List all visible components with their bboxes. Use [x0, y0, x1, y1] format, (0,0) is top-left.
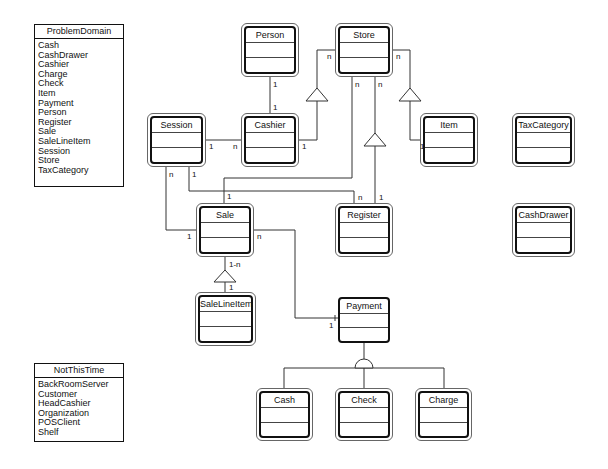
multiplicity-label: 1 — [379, 194, 383, 202]
attributes-section — [517, 133, 570, 148]
class-payment[interactable]: Payment — [338, 297, 390, 343]
class-name: Item — [425, 118, 473, 133]
attributes-section — [246, 133, 294, 148]
class-register[interactable]: Register — [335, 203, 393, 257]
multiplicity-label: 1-n — [229, 261, 241, 269]
problem-domain-list: ProblemDomain Cash CashDrawer Cashier Ch… — [34, 24, 124, 187]
multiplicity-label: 1 — [420, 143, 424, 151]
attributes-section — [246, 43, 294, 58]
class-name: Session — [152, 118, 201, 133]
multiplicity-label: n — [355, 81, 359, 89]
operations-section — [420, 423, 467, 437]
multiplicity-label: 1 — [302, 143, 306, 151]
multiplicity-label: 1 — [273, 81, 277, 89]
attributes-section — [340, 43, 388, 58]
multiplicity-label: 1 — [187, 233, 191, 241]
class-sale-line-item[interactable]: SaleLineItem — [195, 292, 256, 346]
multiplicity-label: n — [396, 53, 400, 61]
class-session[interactable]: Session — [147, 113, 206, 167]
multiplicity-label: 1 — [329, 322, 333, 330]
class-name: Charge — [420, 393, 467, 408]
class-name: Person — [246, 28, 294, 43]
multiplicity-label: n — [358, 194, 362, 202]
class-cash[interactable]: Cash — [256, 388, 313, 441]
class-sale[interactable]: Sale — [196, 203, 254, 257]
operations-section — [425, 148, 473, 162]
operations-section — [246, 148, 294, 162]
operations-section — [152, 148, 201, 162]
class-name: Payment — [340, 299, 388, 314]
attributes-section — [261, 408, 308, 423]
class-name: Check — [340, 393, 388, 408]
attributes-section — [517, 223, 570, 238]
problem-domain-title: ProblemDomain — [35, 25, 123, 39]
operations-section — [340, 238, 388, 252]
attributes-section — [201, 223, 249, 238]
attributes-section — [340, 223, 388, 238]
class-person[interactable]: Person — [241, 23, 299, 77]
class-tax-category[interactable]: TaxCategory — [512, 113, 575, 167]
operations-section — [340, 58, 388, 72]
class-name: Register — [340, 208, 388, 223]
attributes-section — [340, 314, 388, 328]
class-name: TaxCategory — [517, 118, 570, 133]
operations-section — [517, 148, 570, 162]
multiplicity-label: 1 — [229, 284, 233, 292]
multiplicity-label: n — [257, 233, 261, 241]
class-name: Cash — [261, 393, 308, 408]
class-name: Store — [340, 28, 388, 43]
list-item: TaxCategory — [35, 166, 123, 176]
attributes-section — [340, 408, 388, 423]
operations-section — [261, 423, 308, 437]
operations-section — [200, 327, 251, 341]
operations-section — [340, 328, 388, 341]
list-item: Shelf — [35, 428, 123, 438]
class-name: CashDrawer — [517, 208, 570, 223]
multiplicity-label: n — [327, 53, 331, 61]
class-cashier[interactable]: Cashier — [241, 113, 299, 167]
operations-section — [340, 423, 388, 437]
multiplicity-label: n — [378, 81, 382, 89]
operations-section — [201, 238, 249, 252]
class-name: SaleLineItem — [200, 297, 251, 312]
operations-section — [517, 238, 570, 252]
class-name: Sale — [201, 208, 249, 223]
class-store[interactable]: Store — [335, 23, 393, 77]
class-name: Cashier — [246, 118, 294, 133]
class-cash-drawer[interactable]: CashDrawer — [512, 203, 575, 257]
attributes-section — [420, 408, 467, 423]
class-item[interactable]: Item — [420, 113, 478, 167]
operations-section — [246, 58, 294, 72]
not-this-time-list: NotThisTime BackRoomServer Customer Head… — [34, 363, 124, 442]
attributes-section — [425, 133, 473, 148]
class-charge[interactable]: Charge — [415, 388, 472, 441]
attributes-section — [152, 133, 201, 148]
class-check[interactable]: Check — [335, 388, 393, 441]
not-this-time-title: NotThisTime — [35, 364, 123, 378]
multiplicity-label: n — [169, 171, 173, 179]
multiplicity-label: 1 — [273, 104, 277, 112]
multiplicity-label: n — [233, 143, 237, 151]
multiplicity-label: 1 — [192, 171, 196, 179]
attributes-section — [200, 312, 251, 327]
multiplicity-label: 1 — [227, 193, 231, 201]
multiplicity-label: 1 — [209, 143, 213, 151]
